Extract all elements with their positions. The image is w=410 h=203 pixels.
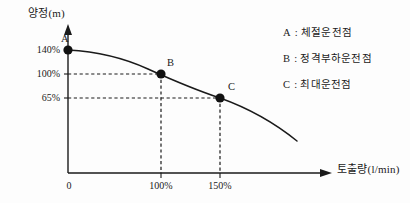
data-point-a [63, 45, 72, 54]
legend-item-a: A : 체절운전점 [283, 24, 372, 39]
legend-separator-c: : [290, 79, 300, 90]
legend-key-b: B [283, 53, 290, 64]
y-tick-label-140: 140% [26, 44, 60, 55]
legend-key-c: C [283, 79, 290, 90]
pump-performance-curve-figure: 양정(m) 토출량(l/min) 140% 100% 65% 0 100% 15… [0, 0, 410, 203]
y-tick-label-65: 65% [26, 92, 60, 103]
legend: A : 체절운전점 B : 정격부하운전점 C : 최대운전점 [283, 24, 372, 91]
legend-key-a: A [283, 27, 291, 38]
guide-lines-point-c [68, 98, 220, 173]
legend-text-b: 정격부하운전점 [300, 50, 371, 65]
legend-separator-a: : [291, 27, 301, 38]
x-tick-label-0: 0 [49, 180, 89, 191]
y-tick-label-100: 100% [26, 68, 60, 79]
point-label-c: C [228, 81, 235, 92]
x-tick-label-100: 100% [141, 180, 181, 191]
x-axis-title: 토출량(l/min) [337, 160, 400, 176]
x-axis [68, 169, 332, 177]
data-point-c [215, 93, 224, 102]
performance-curve [68, 50, 297, 141]
x-tick-label-150: 150% [200, 180, 240, 191]
x-axis-ticks [161, 173, 220, 178]
legend-text-a: 체절운전점 [301, 24, 352, 39]
legend-text-c: 최대운전점 [300, 76, 351, 91]
legend-item-c: C : 최대운전점 [283, 76, 372, 91]
legend-item-b: B : 정격부하운전점 [283, 50, 372, 65]
guide-lines-point-b [68, 74, 161, 173]
legend-separator-b: : [290, 53, 300, 64]
data-point-b [156, 69, 165, 78]
point-label-b: B [167, 57, 174, 68]
point-label-a: A [61, 33, 69, 44]
y-axis-title: 양정(m) [28, 4, 65, 20]
